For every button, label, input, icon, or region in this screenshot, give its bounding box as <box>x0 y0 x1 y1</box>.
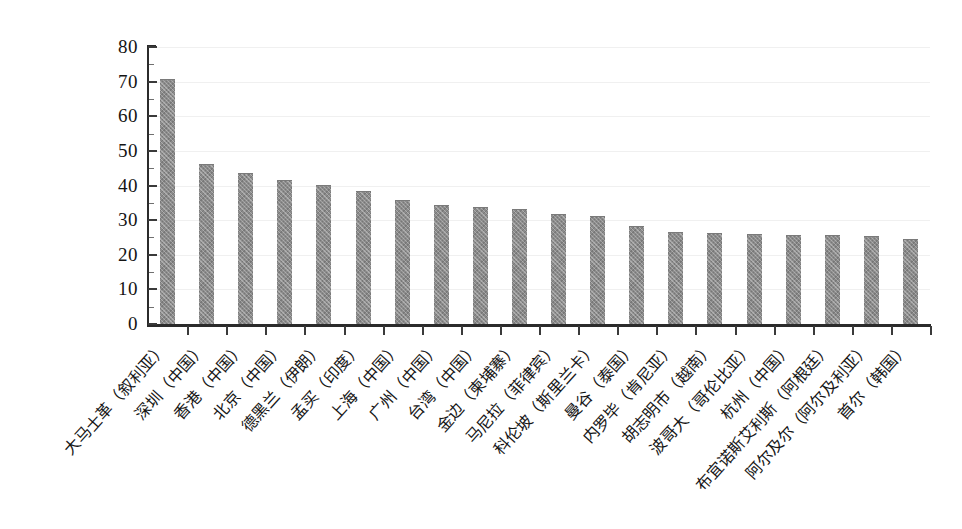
gridline <box>148 116 930 117</box>
y-axis-tick-label: 50 <box>92 141 138 160</box>
y-axis-minor-tick <box>149 307 154 308</box>
bar <box>512 209 527 324</box>
x-axis-label: 胡志明市（越南） <box>619 341 717 447</box>
bar <box>238 173 253 324</box>
x-axis-label-text: 广州（中国） <box>366 339 444 423</box>
x-axis-label: 金边（柬埔寨） <box>435 341 522 435</box>
x-axis-label: 台湾（中国） <box>406 341 482 423</box>
x-axis-label-text: 德黑兰（伊朗） <box>238 339 327 435</box>
bar <box>356 191 371 324</box>
y-axis-tick-label: 40 <box>92 176 138 195</box>
y-axis-tick-label: 20 <box>92 245 138 264</box>
bar <box>316 185 331 325</box>
y-axis-tick <box>148 115 157 117</box>
x-axis-tick <box>656 326 658 335</box>
bar <box>199 164 214 324</box>
bar <box>786 235 801 324</box>
y-axis-tick <box>148 254 157 256</box>
bar <box>629 226 644 324</box>
y-axis-minor-tick <box>149 272 154 273</box>
x-axis-tick <box>304 326 306 335</box>
x-axis-label-text: 阿尔及尔（阿尔及利亚） <box>742 339 874 483</box>
y-axis-minor-tick <box>149 203 154 204</box>
bar-chart: 大马士革（叙利亚）深圳（中国）香港（中国）北京（中国）德黑兰（伊朗）孟买（印度）… <box>0 0 962 529</box>
x-axis-label-text: 台湾（中国） <box>405 339 483 423</box>
gridline <box>148 151 930 152</box>
bar <box>825 235 840 324</box>
x-axis-tick <box>578 326 580 335</box>
x-axis-tick <box>383 326 385 335</box>
y-axis-tick-label: 30 <box>92 210 138 229</box>
x-axis-label: 广州（中国） <box>367 341 443 423</box>
y-axis-minor-tick <box>149 64 154 65</box>
x-axis-tick <box>813 326 815 335</box>
y-axis-tick-label: 0 <box>92 314 138 333</box>
gridline <box>148 255 930 256</box>
x-axis-label: 杭州（中国） <box>719 341 795 423</box>
gridline <box>148 186 930 187</box>
x-axis-tick <box>774 326 776 335</box>
bar <box>864 236 879 324</box>
x-axis-label: 香港（中国） <box>172 341 248 423</box>
y-axis-tick <box>148 46 157 48</box>
gridline <box>148 47 930 48</box>
x-axis-label-text: 孟买（印度） <box>287 339 365 423</box>
gridline <box>148 289 930 290</box>
x-axis-tick <box>422 326 424 335</box>
x-axis-label: 布宜诺斯艾利斯（阿根廷） <box>694 341 834 494</box>
x-axis-label: 深圳（中国） <box>132 341 208 423</box>
y-axis-tick <box>148 288 157 290</box>
y-axis-tick <box>148 219 157 221</box>
x-axis-label-text: 上海（中国） <box>326 339 404 423</box>
y-axis-tick <box>148 81 157 83</box>
x-axis-tick <box>226 326 228 335</box>
gridline <box>148 82 930 83</box>
bar <box>551 214 566 324</box>
bar <box>747 234 762 324</box>
x-axis-label-text: 香港（中国） <box>170 339 248 423</box>
x-axis-label-text: 杭州（中国） <box>717 339 795 423</box>
x-axis-tick <box>461 326 463 335</box>
x-axis-label: 内罗毕（肯尼亚） <box>580 341 678 447</box>
x-axis-label: 曼谷（泰国） <box>563 341 639 423</box>
x-axis-label-text: 大马士革（叙利亚） <box>60 339 170 459</box>
bar <box>395 200 410 324</box>
y-axis-tick <box>148 323 157 325</box>
x-axis-label-text: 内罗毕（肯尼亚） <box>579 339 679 447</box>
x-axis-label: 上海（中国） <box>328 341 404 423</box>
y-axis-tick-label: 80 <box>92 37 138 56</box>
x-axis-label: 科伦坡（斯里兰卡） <box>491 341 599 459</box>
x-axis-tick <box>852 326 854 335</box>
x-axis-tick <box>187 326 189 335</box>
x-axis-tick <box>500 326 502 335</box>
y-axis-minor-tick <box>149 168 154 169</box>
x-axis-tick <box>891 326 893 335</box>
x-axis-tick <box>695 326 697 335</box>
bar <box>160 79 175 324</box>
x-axis-tick <box>539 326 541 335</box>
x-axis-label-text: 北京（中国） <box>209 339 287 423</box>
x-axis-label-text: 深圳（中国） <box>131 339 209 423</box>
bar <box>473 207 488 324</box>
x-axis-label-text: 胡志明市（越南） <box>618 339 718 447</box>
y-axis-tick-label: 60 <box>92 106 138 125</box>
x-axis-label: 大马士革（叙利亚） <box>61 341 169 459</box>
x-axis-tick <box>735 326 737 335</box>
x-axis-label-text: 波哥大（哥伦比亚） <box>646 339 756 459</box>
y-axis-tick-label: 70 <box>92 72 138 91</box>
x-axis-label-text: 马尼拉（菲律宾） <box>461 339 561 447</box>
y-axis-tick-label: 10 <box>92 279 138 298</box>
x-axis-label: 阿尔及尔（阿尔及利亚） <box>744 341 874 482</box>
x-axis-tick <box>265 326 267 335</box>
plot-area <box>148 47 930 324</box>
bar <box>434 205 449 324</box>
y-axis-minor-tick <box>149 237 154 238</box>
x-axis-tick <box>617 326 619 335</box>
bar <box>590 216 605 324</box>
x-axis-label-text: 曼谷（泰国） <box>561 339 639 423</box>
y-axis-tick <box>148 185 157 187</box>
x-axis-tick <box>344 326 346 335</box>
x-axis-label-text: 金边（柬埔寨） <box>433 339 522 435</box>
x-axis-label: 马尼拉（菲律宾） <box>463 341 561 447</box>
x-axis-label: 孟买（印度） <box>289 341 365 423</box>
